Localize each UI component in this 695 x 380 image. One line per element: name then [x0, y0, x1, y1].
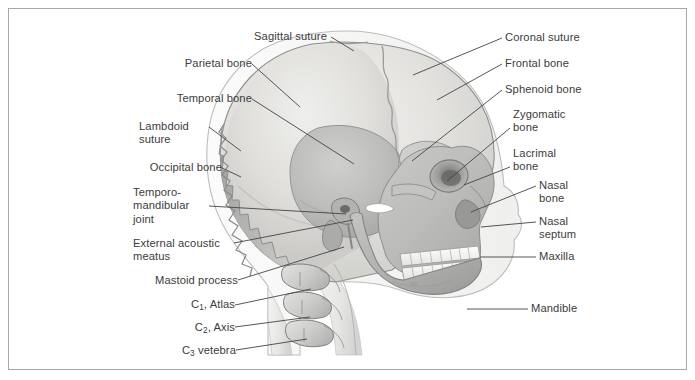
sagittal-suture-line: [330, 41, 368, 44]
label-coronal-suture: Coronal suture: [505, 31, 580, 44]
cranial-vault: [220, 42, 494, 282]
facial-skeleton: [323, 146, 495, 276]
label-mandible: Mandible: [531, 302, 577, 315]
leader-lines: [209, 37, 536, 350]
leader-c1-atlas: [235, 289, 311, 305]
mastoid-process-shape: [323, 220, 343, 251]
leader-temporal-bone: [252, 99, 354, 164]
label-mastoid-process: Mastoid process: [61, 274, 238, 287]
label-c3-vetebra: C3 vetebra: [125, 344, 236, 358]
mandibular-notch: [366, 204, 394, 213]
upper-teeth: [400, 246, 480, 266]
label-occipital-bone: Occipital bone: [61, 161, 222, 174]
label-lambdoid-suture: Lambdoid suture: [139, 120, 189, 147]
label-zygomatic-bone: Zygomatic bone: [513, 108, 566, 135]
coronal-suture-line: [382, 46, 404, 180]
label-sagittal-suture: Sagittal suture: [254, 30, 327, 43]
orbit-socket: [428, 158, 470, 195]
lambdoid-suture-line: [219, 124, 252, 276]
leader-mastoid-process: [238, 247, 344, 280]
label-nasal-bone: Nasal bone: [539, 179, 568, 206]
leader-parietal-bone: [252, 64, 300, 107]
label-temporal-bone: Temporal bone: [61, 92, 252, 105]
figure-border-frame: Sagittal suture Parietal bone Temporal b…: [8, 8, 687, 370]
leader-frontal-bone: [437, 64, 502, 100]
styloid-process: [348, 224, 352, 248]
leader-sphenoid-bone: [412, 90, 502, 161]
spine-posterior-contour: [334, 264, 356, 355]
label-maxilla: Maxilla: [539, 250, 575, 263]
parietal-bone-region: [225, 44, 414, 272]
label-lacrimal-bone: Lacrimal bone: [513, 147, 556, 174]
leader-coronal-suture: [413, 38, 502, 75]
leader-sagittal-suture: [331, 37, 354, 51]
leader-external-acoustic: [234, 220, 353, 243]
leader-occipital-bone: [222, 168, 241, 177]
mental-foramen: [410, 282, 418, 287]
leader-tmj: [209, 206, 346, 214]
external-acoustic-meatus-opening: [340, 205, 350, 213]
mandibular-condyle: [332, 198, 360, 224]
label-sphenoid-bone: Sphenoid bone: [505, 83, 582, 96]
neck-soft-tissue: [268, 268, 362, 355]
occipital-bone-region: [219, 128, 292, 271]
nasal-bone-ridge: [470, 186, 486, 208]
leader-c2-axis: [235, 317, 310, 327]
leader-c3-vetebra: [236, 339, 307, 350]
label-parietal-bone: Parietal bone: [61, 57, 252, 70]
label-c2-axis: C2, Axis: [135, 321, 235, 335]
c3-vertebra-shape: [286, 320, 334, 347]
label-c1-atlas: C1, Atlas: [135, 298, 235, 312]
sphenoid-bone-region: [399, 141, 470, 216]
scalp-soft-tissue-outline: [207, 31, 522, 355]
leader-nasal-bone: [471, 186, 536, 212]
label-temporomandibular-joint: Temporo- mandibular joint: [133, 186, 189, 226]
skull-diagram-figure: Sagittal suture Parietal bone Temporal b…: [0, 0, 695, 380]
nasal-aperture: [455, 200, 480, 229]
lower-teeth: [402, 260, 480, 280]
zygomatic-arch: [392, 184, 436, 200]
label-frontal-bone: Frontal bone: [505, 57, 569, 70]
leader-lambdoid-suture: [209, 127, 241, 151]
mandible-bone: [350, 213, 482, 295]
leader-lacrimal-bone: [464, 167, 510, 185]
c2-axis-shape: [284, 292, 332, 319]
leader-zygomatic-bone: [447, 128, 510, 181]
cervical-spine: [282, 264, 356, 355]
temporal-bone-region: [290, 125, 409, 237]
label-nasal-septum: Nasal septum: [539, 215, 576, 242]
label-external-acoustic-meatus: External acoustic meatus: [133, 237, 220, 264]
leader-nasal-septum: [481, 222, 536, 227]
c1-atlas-shape: [282, 264, 330, 291]
dental-arches: [400, 246, 480, 280]
